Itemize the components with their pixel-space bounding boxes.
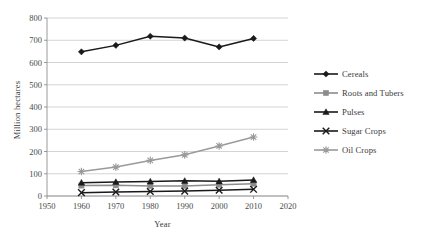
data-point-marker <box>147 33 153 39</box>
square-marker-icon <box>313 86 339 100</box>
series-line <box>81 36 253 52</box>
series-cereals <box>78 33 256 55</box>
data-point-marker <box>146 157 154 165</box>
legend-item-roots-and-tubers[interactable]: Roots and Tubers <box>313 83 433 102</box>
series-line <box>81 184 253 186</box>
data-point-marker <box>215 142 223 150</box>
legend-item-sugar-crops[interactable]: Sugar Crops <box>313 121 433 140</box>
data-point-marker <box>181 151 189 159</box>
series-oil-crops <box>78 133 258 175</box>
legend-item-label: Cereals <box>342 69 368 79</box>
legend-item-cereals[interactable]: Cereals <box>313 64 433 83</box>
series-line <box>81 137 253 171</box>
x-marker-icon <box>313 124 339 138</box>
series-sugar-crops <box>78 186 257 196</box>
chart-legend: CerealsRoots and TubersPulsesSugar Crops… <box>313 64 433 159</box>
data-point-marker <box>78 168 86 176</box>
data-point-marker <box>323 90 328 95</box>
data-point-marker <box>323 70 329 76</box>
chart-container: Million hectares Year 010020030040050060… <box>0 0 435 239</box>
data-point-marker <box>78 49 84 55</box>
legend-item-oil-crops[interactable]: Oil Crops <box>313 140 433 159</box>
data-point-marker <box>112 163 120 171</box>
diamond-marker-icon <box>313 67 339 81</box>
data-point-marker <box>182 183 187 188</box>
legend-item-label: Sugar Crops <box>342 126 386 136</box>
data-point-marker <box>113 42 119 48</box>
series-line <box>81 189 253 192</box>
legend-item-label: Roots and Tubers <box>342 88 404 98</box>
data-point-marker <box>216 44 222 50</box>
legend-item-label: Oil Crops <box>342 145 377 155</box>
data-point-marker <box>250 133 258 141</box>
series-line <box>81 180 253 183</box>
data-point-marker <box>322 146 330 154</box>
legend-item-pulses[interactable]: Pulses <box>313 102 433 121</box>
legend-item-label: Pulses <box>342 107 365 117</box>
triangle-marker-icon <box>313 105 339 119</box>
asterisk-marker-icon <box>313 143 339 157</box>
